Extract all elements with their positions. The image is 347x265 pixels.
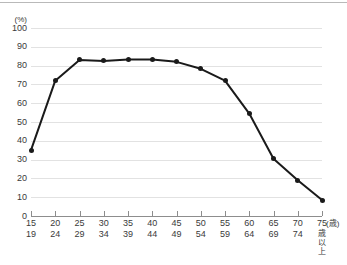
y-axis-tick-label: 50 [17,118,27,127]
data-point [126,57,131,62]
x-axis-line [31,216,322,217]
x-axis-tick [31,211,32,216]
y-axis-tick-label: 20 [17,174,27,183]
x-axis-tick [274,211,275,216]
x-axis-labels: (歳) 151920242529303435394044454950545559… [0,218,347,265]
x-axis-tick [152,211,153,216]
data-point [223,78,228,83]
y-axis-tick-label: 30 [17,155,27,164]
top-divider [0,2,347,3]
x-axis-tick-label: 75歳以上 [304,218,340,256]
x-axis-tick [55,211,56,216]
x-axis-tick [177,211,178,216]
x-axis-tick [128,211,129,216]
plot-area [31,28,322,216]
data-point [53,78,58,83]
data-point [29,148,34,153]
x-axis-tick [80,211,81,216]
y-axis-tick-label: 10 [17,193,27,202]
x-axis-tick [298,211,299,216]
y-axis-tick-label: 60 [17,99,27,108]
chart-figure: (%) 1009080706050403020100 (歳) 151920242… [0,0,347,265]
x-axis-tick [225,211,226,216]
y-axis-tick-label: 90 [17,42,27,51]
x-axis-tick [104,211,105,216]
data-point [150,57,155,62]
x-axis-tick [201,211,202,216]
y-axis-tick-label: 100 [12,24,27,33]
y-axis-tick-label: 70 [17,80,27,89]
y-axis-tick-label: 40 [17,136,27,145]
data-point [320,198,325,203]
x-axis-tick [249,211,250,216]
series-line [31,28,322,216]
data-point [247,111,252,116]
y-axis-tick-label: 80 [17,61,27,70]
x-axis-tick [322,211,323,216]
